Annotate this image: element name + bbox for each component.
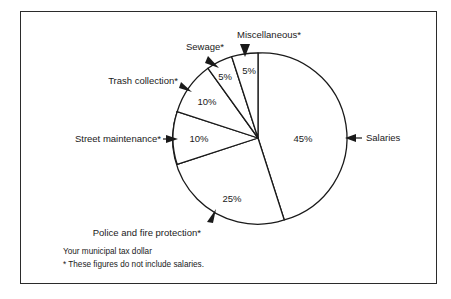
- caption-line-1: Your municipal tax dollar: [63, 247, 152, 256]
- pie-value-label-miscellaneous: 5%: [242, 65, 256, 76]
- chart-figure: 45% 25% 10% 10% 5% 5% Salaries Police an…: [0, 0, 451, 299]
- callout-label-salaries: Salaries: [366, 132, 401, 143]
- pie-value-label-police-and-fire-protection: 25%: [222, 193, 242, 204]
- callout-label-street-maintenance: Street maintenance*: [75, 133, 161, 144]
- pie-value-label-trash-collection: 10%: [197, 96, 217, 107]
- callout-label-trash-collection: Trash collection*: [108, 75, 178, 86]
- callout-label-miscellaneous: Miscellaneous*: [237, 29, 301, 40]
- callout-label-police-and-fire-protection: Police and fire protection*: [93, 227, 202, 238]
- pie-chart-canvas: 45% 25% 10% 10% 5% 5% Salaries Police an…: [0, 0, 451, 299]
- callout-label-sewage: Sewage*: [186, 41, 224, 52]
- caption-line-2: * These figures do not include salaries.: [63, 260, 204, 269]
- pie-value-label-sewage: 5%: [218, 71, 232, 82]
- pie-value-label-street-maintenance: 10%: [189, 133, 209, 144]
- pie-value-label-salaries: 45%: [293, 133, 313, 144]
